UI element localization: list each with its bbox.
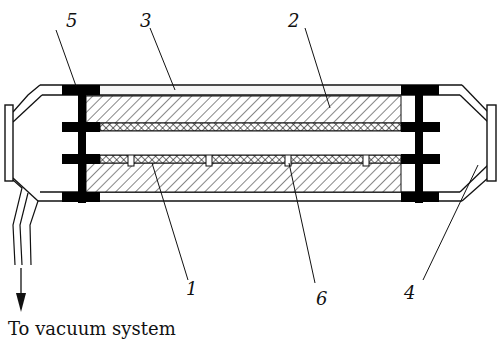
lower-hatched-body [86, 163, 401, 192]
upper-hatched-body [86, 96, 401, 123]
label-4: 4 [404, 284, 415, 302]
lower-crosshatch-layer [100, 155, 401, 163]
vacuum-port-tube [13, 180, 38, 265]
down-arrow-icon [16, 268, 26, 312]
vacuum-system-caption: To vacuum system [8, 318, 176, 339]
label-3: 3 [140, 12, 151, 30]
label-1: 1 [186, 280, 197, 298]
left-end-window [5, 105, 13, 181]
central-bore [62, 131, 440, 155]
label-2: 2 [288, 12, 299, 30]
label-6: 6 [316, 290, 327, 308]
label-5: 5 [66, 12, 77, 30]
upper-crosshatch-layer [100, 123, 401, 131]
right-end-window [487, 105, 496, 181]
